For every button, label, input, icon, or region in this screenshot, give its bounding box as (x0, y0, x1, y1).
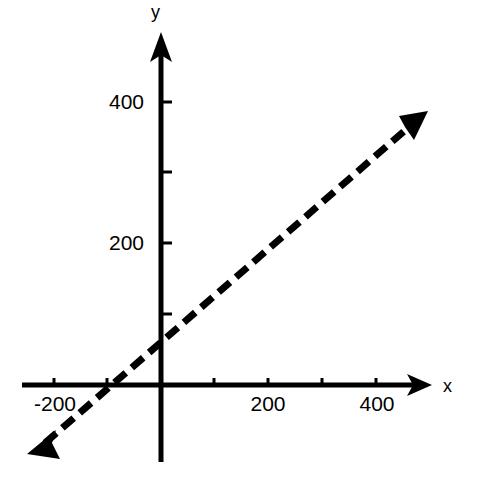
graph-figure: -200 200 400 200 400 x y (0, 0, 485, 492)
y-axis-name: y (151, 2, 160, 23)
x-axis-name: x (443, 376, 452, 397)
x-tick-label-400: 400 (345, 392, 409, 416)
x-tick-label-200: 200 (236, 392, 300, 416)
y-tick-label-400: 400 (82, 90, 144, 114)
coordinate-plot (0, 0, 485, 492)
y-tick-label-200: 200 (82, 231, 144, 255)
y-axis-group (150, 32, 172, 462)
x-tick-label--200: -200 (22, 392, 88, 416)
